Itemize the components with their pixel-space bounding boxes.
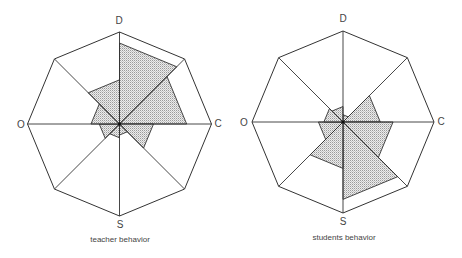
students-caption: students behavior xyxy=(312,233,375,242)
students-label-cooperation: C xyxy=(437,117,444,127)
students-behavior-diagram: D C S O students behavior xyxy=(0,0,462,258)
students-label-dominance: D xyxy=(339,14,346,24)
center-point xyxy=(341,120,344,123)
octant-sector-NE-E xyxy=(343,96,380,122)
students-label-opposition: O xyxy=(240,118,248,128)
spoke-line xyxy=(279,58,343,122)
students-octagon-chart xyxy=(0,0,462,258)
students-label-submission: S xyxy=(340,217,347,227)
